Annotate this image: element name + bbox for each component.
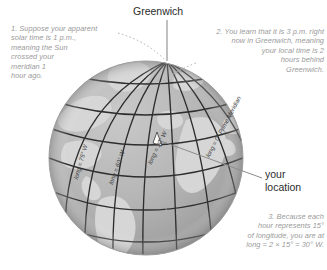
your-location-label: your location <box>265 168 301 193</box>
annotation-step-2: 2. You learn that it is 3 p.m. right now… <box>178 27 324 74</box>
annotation-step-3: 3. Because each hour represents 15° of l… <box>176 212 324 250</box>
greenwich-label: Greenwich <box>133 5 183 18</box>
annotation-step-1: 1. Suppose your apparent solar time is 1… <box>11 24 127 80</box>
globe-diagram: 1. Suppose your apparent solar time is 1… <box>0 0 327 270</box>
